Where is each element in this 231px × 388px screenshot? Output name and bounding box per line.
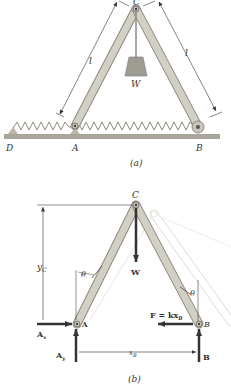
- caption-a: (a): [130, 158, 143, 168]
- label-f: F = kxB: [150, 310, 183, 321]
- diagram-canvas: C l l W D A B (a): [0, 0, 231, 388]
- label-b-force: B: [203, 352, 210, 362]
- label-weight: W: [131, 79, 141, 89]
- ground-surface: [4, 134, 220, 139]
- label-a-a: A: [71, 143, 79, 153]
- label-l-right: l: [185, 48, 188, 58]
- label-d: D: [5, 143, 13, 153]
- label-theta-left: θ: [81, 270, 86, 279]
- ghost-linkage: [90, 211, 231, 322]
- label-xb: xB: [129, 349, 137, 358]
- caption-b: (b): [128, 374, 141, 384]
- spring: [13, 122, 198, 130]
- support-d: [8, 127, 18, 134]
- label-l-left: l: [89, 56, 92, 66]
- label-b-a: B: [195, 143, 203, 153]
- label-b-point: B: [203, 320, 210, 329]
- figure-b: C yC θ θ W F = kxB B A Ax Ay xB B (b): [36, 190, 231, 384]
- label-ay: Ay: [55, 350, 66, 362]
- label-c-a: C: [133, 0, 140, 7]
- label-theta-right: θ: [190, 289, 195, 298]
- label-w: W: [130, 267, 141, 277]
- label-yc: yC: [36, 262, 47, 273]
- weight-block: [125, 57, 147, 76]
- figure-a: C l l W D A B (a): [4, 0, 222, 168]
- label-a-point: A: [81, 320, 88, 329]
- label-ax: Ax: [36, 329, 47, 340]
- label-c-b: C: [132, 190, 139, 200]
